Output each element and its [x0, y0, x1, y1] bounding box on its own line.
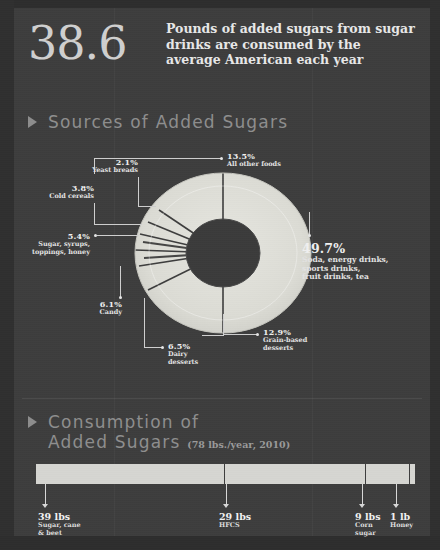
section-subtitle-consumption: (78 lbs./year, 2010): [187, 439, 290, 450]
leader-dot: [220, 157, 223, 160]
bar-segment-honey: [410, 464, 415, 484]
bar-label-hfcs: 29 lbs HFCS: [219, 511, 289, 530]
leader-dot: [308, 234, 311, 237]
slice-label-yeast-breads: 2.1% Yeast breads: [70, 158, 138, 175]
leader-dot: [161, 346, 164, 349]
slice-label-sugar-syrups: 5.4% Sugar, syrups, toppings, honey: [14, 232, 90, 256]
page-frame-top: [0, 0, 440, 8]
leader-line: [202, 335, 224, 336]
section-title-consumption-line1: Consumption of: [48, 412, 199, 432]
slice-name: Soda, energy drinks, sports drinks, frui…: [302, 256, 424, 282]
leader-line: [94, 203, 95, 225]
leader-line: [138, 177, 139, 207]
leader-line: [309, 212, 310, 236]
slice-name: Cold cereals: [26, 193, 94, 201]
hero-banner: 38.6 Pounds of added sugars from sugar d…: [14, 8, 430, 98]
leader-line: [120, 266, 121, 298]
leader-line: [138, 206, 156, 207]
bar-segment-hfcs: [225, 464, 366, 484]
slice-label-candy: 6.1% Candy: [60, 300, 122, 317]
bar-segment-corn-sugar: [366, 464, 410, 484]
bar-label-honey: 1 lb Honey: [390, 511, 430, 530]
slice-label-soda-drinks: 49.7% Soda, energy drinks, sports drinks…: [302, 242, 424, 282]
section-divider: [22, 398, 422, 399]
leader-line: [97, 235, 139, 236]
hero-statistic-number: 38.6: [28, 20, 126, 66]
leader-line: [144, 347, 162, 348]
section-title-sources: Sources of Added Sugars: [48, 112, 288, 132]
bar-label-source: Sugar, cane & beet: [38, 522, 118, 537]
slice-name: Sugar, syrups, toppings, honey: [14, 241, 90, 256]
infographic-page: 38.6 Pounds of added sugars from sugar d…: [0, 0, 440, 550]
section-title-consumption-text: Added Sugars: [48, 432, 181, 452]
hero-statistic-text: Pounds of added sugars from sugar drinks…: [166, 21, 416, 68]
page-frame-bottom: [0, 536, 440, 550]
bar-label-sugar-cane-beet: 39 lbs Sugar, cane & beet: [38, 511, 118, 537]
bar-label-source: Corn sugar: [355, 522, 391, 537]
bar-tick: [362, 484, 363, 504]
leader-line: [94, 224, 142, 225]
bar-tick: [226, 484, 227, 504]
section-title-consumption-line2: Added Sugars (78 lbs./year, 2010): [48, 432, 290, 455]
slice-percent: 49.7%: [302, 242, 424, 256]
bar-label-source: HFCS: [219, 522, 289, 530]
slice-label-grain-based-desserts: 12.9% Grain-based desserts: [263, 328, 353, 352]
slice-name: Candy: [60, 309, 122, 317]
bar-tick-arrow-icon: [42, 504, 48, 508]
slice-name: Yeast breads: [70, 167, 138, 175]
consumption-stacked-bar: [36, 464, 414, 484]
slice-name: All other foods: [227, 161, 337, 169]
slice-label-cold-cereals: 3.8% Cold cereals: [26, 184, 94, 201]
bar-label-corn-sugar: 9 lbs Corn sugar: [355, 511, 391, 537]
bar-segment-sugar-cane-beet: [36, 464, 225, 484]
bar-tick-arrow-icon: [359, 504, 365, 508]
triangle-right-icon: [28, 116, 37, 128]
triangle-right-icon: [28, 416, 37, 428]
slice-label-dairy-desserts: 6.5% Dairy desserts: [168, 342, 238, 366]
bar-label-source: Honey: [390, 522, 430, 530]
donut-chart-graphic: [132, 170, 314, 336]
page-frame-right: [430, 0, 440, 550]
bar-tick-arrow-icon: [393, 504, 399, 508]
leader-line: [223, 314, 224, 336]
page-frame-left: [0, 0, 14, 550]
bar-tick: [396, 484, 397, 504]
bar-tick: [45, 484, 46, 504]
leader-dot: [256, 333, 259, 336]
infographic-canvas: 38.6 Pounds of added sugars from sugar d…: [14, 8, 430, 536]
sources-pie-chart: 13.5% All other foods 2.1% Yeast breads …: [14, 148, 430, 388]
leader-line: [144, 298, 145, 348]
leader-line: [223, 334, 257, 335]
bar-tick-arrow-icon: [223, 504, 229, 508]
slice-name: Grain-based desserts: [263, 337, 353, 352]
slice-label-all-other-foods: 13.5% All other foods: [227, 152, 337, 169]
slice-name: Dairy desserts: [168, 351, 238, 366]
